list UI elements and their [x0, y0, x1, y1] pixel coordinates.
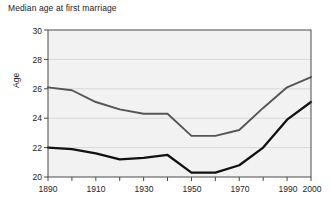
x-tick-marks — [48, 177, 311, 181]
plot-area — [0, 0, 331, 209]
y-tick-marks — [44, 30, 48, 177]
chart-figure: Median age at first marriage Age 30 28 2… — [0, 0, 331, 209]
plot-background — [48, 30, 311, 177]
